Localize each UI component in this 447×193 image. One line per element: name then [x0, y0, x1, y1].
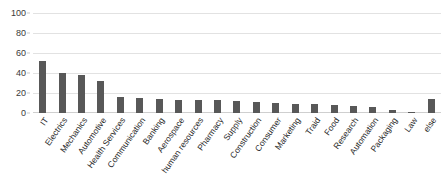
bar — [97, 81, 104, 113]
bar-slot — [285, 13, 304, 113]
bar-slot — [111, 13, 130, 113]
bar — [233, 101, 240, 113]
bar — [195, 100, 202, 113]
bar-slot — [324, 13, 343, 113]
x-label-slot: Construction — [247, 114, 266, 193]
y-axis-tick-label: 80 — [16, 29, 26, 38]
y-axis-tick-label: 100 — [11, 9, 26, 18]
bar-slot — [363, 13, 382, 113]
bar — [408, 112, 415, 113]
bar-slot — [150, 13, 169, 113]
x-label-slot: Pharmacy — [208, 114, 227, 193]
bar-slot — [33, 13, 52, 113]
bar — [39, 61, 46, 113]
bar-slot — [266, 13, 285, 113]
bar — [292, 104, 299, 113]
x-axis-tick-label: else — [422, 116, 438, 134]
x-label-slot: Packaging — [383, 114, 402, 193]
bar — [253, 102, 260, 113]
bar-series — [33, 13, 441, 113]
bar-slot — [305, 13, 324, 113]
x-label-slot: Electrics — [52, 114, 71, 193]
bar — [272, 103, 279, 113]
x-label-slot: IT — [33, 114, 52, 193]
bar-slot — [188, 13, 207, 113]
bar-slot — [402, 13, 421, 113]
x-label-slot: Traid — [305, 114, 324, 193]
plot-area — [33, 13, 441, 113]
y-axis-tick-label: 40 — [16, 69, 26, 78]
bar — [369, 107, 376, 113]
bar — [78, 75, 85, 113]
bar — [214, 100, 221, 113]
y-axis-tick-label: 20 — [16, 89, 26, 98]
bar-slot — [52, 13, 71, 113]
bar-slot — [72, 13, 91, 113]
bar — [311, 104, 318, 113]
x-label-slot: Food — [324, 114, 343, 193]
y-axis-tick-mark — [27, 33, 30, 34]
x-label-slot: else — [421, 114, 440, 193]
bar-slot — [91, 13, 110, 113]
x-axis-labels: ITElectricsMechanicsAutomotiveHealth Ser… — [33, 114, 441, 193]
bar-slot — [421, 13, 440, 113]
x-label-slot: Automation — [363, 114, 382, 193]
x-label-slot: Communication — [130, 114, 149, 193]
bar-slot — [247, 13, 266, 113]
x-label-slot: Law — [402, 114, 421, 193]
bar — [175, 100, 182, 113]
bar-slot — [344, 13, 363, 113]
bar — [136, 98, 143, 113]
y-axis-tick-mark — [27, 93, 30, 94]
bar — [331, 105, 338, 113]
bar — [117, 97, 124, 113]
bar — [350, 106, 357, 113]
y-axis-tick-mark — [27, 13, 30, 14]
x-axis-tick-label: Law — [403, 116, 419, 134]
x-label-slot: human resources — [188, 114, 207, 193]
bar-slot — [208, 13, 227, 113]
bar-slot — [169, 13, 188, 113]
x-axis-tick-label: Traid — [304, 116, 322, 136]
bar — [428, 99, 435, 113]
bar — [59, 73, 66, 113]
bar-slot — [383, 13, 402, 113]
y-axis-tick-label: 60 — [16, 49, 26, 58]
x-label-slot: Marketing — [285, 114, 304, 193]
x-axis-tick-label: IT — [38, 116, 49, 127]
x-label-slot: Banking — [150, 114, 169, 193]
y-axis: 020406080100 — [0, 13, 30, 113]
bar-slot — [227, 13, 246, 113]
x-label-slot: Consumer — [266, 114, 285, 193]
y-axis-tick-label: 0 — [21, 109, 26, 118]
bar — [389, 110, 396, 113]
bar-chart: 020406080100 ITElectricsMechanicsAutomot… — [0, 0, 447, 193]
y-axis-tick-mark — [27, 73, 30, 74]
y-axis-tick-mark — [27, 53, 30, 54]
y-axis-tick-mark — [27, 113, 30, 114]
bar — [156, 99, 163, 113]
bar-slot — [130, 13, 149, 113]
